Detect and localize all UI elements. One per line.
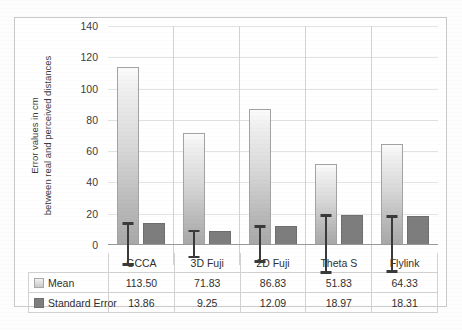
table-cell-value: 71.83 [174,273,240,293]
bar-group [306,26,372,245]
y-axis-tick-labels: 020406080100120140 [59,18,103,253]
category-header-cell: 2D Fuji [240,253,306,273]
table-row: 113.5071.8386.8351.8364.33 [109,273,438,293]
bar-group [240,26,306,245]
bar-mean[interactable] [183,133,205,245]
table-cell-value: 86.83 [240,273,306,293]
plot-area [108,26,438,245]
y-axis-title: Error values in cm between real and perc… [29,18,55,253]
category-header-cell: 3D Fuji [174,253,240,273]
y-axis-title-line1: Error values in cm [30,56,43,216]
y-tick-label: 60 [86,145,98,157]
table-cell-value: 113.50 [109,273,175,293]
table-cell-value: 18.97 [306,293,372,313]
y-tick-label: 20 [86,208,98,220]
bar-standard-error[interactable] [407,216,429,245]
y-tick-label: 80 [86,114,98,126]
category-header-cell: Theta S [306,253,372,273]
y-tick-label: 0 [92,239,98,251]
category-header-cell: Flylink [372,253,438,273]
legend-column: MeanStandard Error [28,272,108,306]
y-tick-label: 120 [80,51,98,63]
x-axis-line [108,244,438,245]
table-cell-value: 12.09 [240,293,306,313]
standard-error-swatch-icon [34,298,44,308]
bar-group [108,26,174,245]
table-cell-value: 64.33 [372,273,438,293]
legend-cell: Mean [29,273,109,293]
error-bar [391,215,393,272]
data-table: MeanStandard Error GCCA3D Fuji2D FujiThe… [108,253,438,306]
bar-groups [108,26,438,245]
category-header-cell: GCCA [109,253,175,273]
table-cell-value: 13.86 [109,293,175,313]
y-tick-label: 140 [80,20,98,32]
table-cell-value: 51.83 [306,273,372,293]
legend-cell: Standard Error [29,293,109,313]
bar-mean[interactable] [117,67,139,245]
bar-mean[interactable] [315,164,337,245]
error-bar [325,214,327,273]
plot-region: Error values in cm between real and perc… [15,18,446,253]
data-table-grid: GCCA3D Fuji2D FujiTheta SFlylink113.5071… [108,253,438,313]
legend-row: Standard Error [29,293,109,313]
bar-standard-error[interactable] [275,226,297,245]
table-cell-value: 9.25 [174,293,240,313]
bar-mean[interactable] [249,109,271,245]
y-tick-label: 40 [86,176,98,188]
y-axis-title-line2: between real and perceived distances [42,56,55,216]
error-bar [259,225,261,263]
bar-mean[interactable] [381,144,403,245]
legend-label: Mean [48,277,74,289]
legend-row: Mean [29,273,109,293]
error-bar [193,230,195,259]
error-bar [127,222,129,265]
legend-label: Standard Error [48,297,117,309]
mean-swatch-icon [34,278,44,288]
table-row: 13.869.2512.0918.9718.31 [109,293,438,313]
bar-standard-error[interactable] [341,215,363,245]
bar-group [174,26,240,245]
chart-frame: Error values in cm between real and perc… [14,17,447,307]
y-tick-label: 100 [80,83,98,95]
bar-standard-error[interactable] [143,223,165,245]
bar-group [372,26,438,245]
table-cell-value: 18.31 [372,293,438,313]
bar-standard-error[interactable] [209,231,231,245]
